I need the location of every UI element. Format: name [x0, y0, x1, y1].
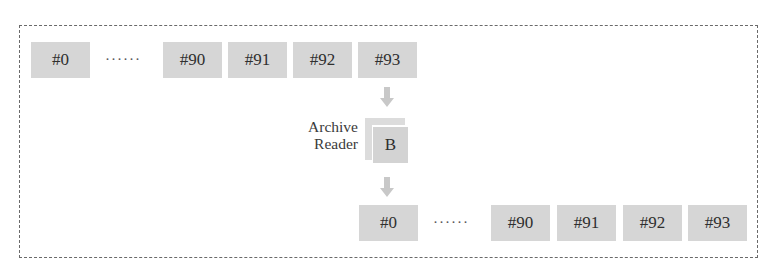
top-block-92-label: #92	[310, 50, 336, 70]
bottom-block-0: #0	[359, 205, 418, 241]
bottom-block-92: #92	[623, 205, 682, 241]
bottom-block-92-label: #92	[640, 213, 666, 233]
buffer-block: B	[373, 127, 408, 163]
down-arrow-icon	[380, 177, 394, 197]
bottom-block-90-label: #90	[508, 213, 534, 233]
top-block-92: #92	[293, 42, 352, 78]
top-block-91: #91	[228, 42, 287, 78]
bottom-block-90: #90	[491, 205, 550, 241]
archive-reader-label-line2: Reader	[290, 135, 358, 152]
top-block-90: #90	[163, 42, 222, 78]
bottom-block-91: #91	[557, 205, 616, 241]
buffer-block-label: B	[385, 135, 396, 155]
top-block-91-label: #91	[245, 50, 271, 70]
archive-reader-label-line1: Archive	[290, 118, 358, 135]
archive-reader-label: Archive Reader	[290, 118, 358, 152]
down-arrow-icon	[380, 87, 394, 107]
top-block-93: #93	[358, 42, 417, 78]
bottom-block-91-label: #91	[574, 213, 600, 233]
top-ellipsis: ······	[105, 41, 141, 77]
top-block-93-label: #93	[375, 50, 401, 70]
top-block-0-label: #0	[52, 50, 69, 70]
top-block-0: #0	[31, 42, 90, 78]
bottom-ellipsis: ······	[433, 204, 469, 240]
bottom-block-93-label: #93	[705, 213, 731, 233]
top-block-90-label: #90	[180, 50, 206, 70]
bottom-block-93: #93	[688, 205, 747, 241]
bottom-block-0-label: #0	[380, 213, 397, 233]
